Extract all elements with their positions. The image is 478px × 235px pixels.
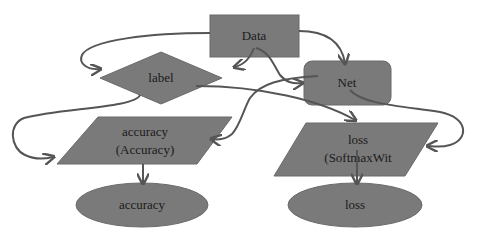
node-accuracy-layer: accuracy (Accuracy) <box>57 117 232 164</box>
node-loss-output-label: loss <box>345 197 365 212</box>
node-label: label <box>100 52 222 104</box>
node-loss-layer-line1: loss <box>348 132 368 147</box>
node-accuracy-layer-line2: (Accuracy) <box>116 142 174 157</box>
node-data-label: Data <box>242 28 267 43</box>
caffe-net-diagram: Data label Net accuracy (Accuracy) loss … <box>0 0 478 235</box>
node-loss-layer-line2: (SoftmaxWit <box>324 150 392 165</box>
node-accuracy-output-label: accuracy <box>119 197 166 212</box>
node-net: Net <box>304 61 391 105</box>
node-label-label: label <box>148 70 174 85</box>
edge-data-to-net-right <box>299 31 345 63</box>
node-accuracy-output: accuracy <box>76 183 208 227</box>
node-accuracy-layer-line1: accuracy <box>122 124 169 139</box>
node-data: Data <box>210 15 299 57</box>
node-loss-output: loss <box>288 183 422 227</box>
node-net-label: Net <box>338 75 357 90</box>
